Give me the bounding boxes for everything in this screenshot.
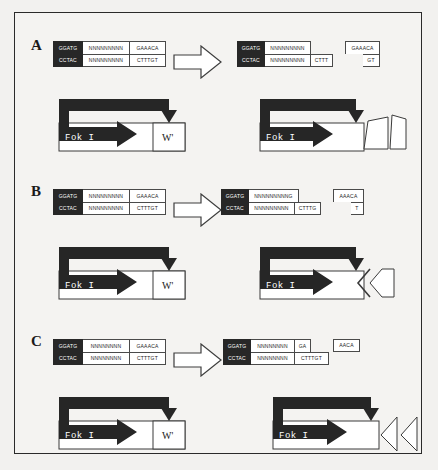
figure-frame: A GGATG NNNNNNNNN GAAACA CCTAC NNNNNNNNN… xyxy=(14,12,422,454)
dna-top-strand: GAAACA xyxy=(345,41,380,54)
recognition-site-bottom: CCTAC xyxy=(53,54,83,67)
recognition-site-top: GGATG xyxy=(221,189,249,202)
dna-bottom-strand: CCTAC NNNNNNNN CTTTGT xyxy=(53,352,166,365)
dna-top-strand: GGATG NNNNNNNNN GAAACA xyxy=(53,189,166,202)
target-bottom: CTTTGT xyxy=(130,54,166,67)
dna-top-strand: GGATG NNNNNNNNN GAAACA xyxy=(53,41,166,54)
recognition-site-top: GGATG xyxy=(237,41,265,54)
spacer-top: NNNNNNNNN xyxy=(83,189,130,202)
domain-label: W' xyxy=(162,132,173,143)
enzyme-label: Fok I xyxy=(65,431,95,441)
spacer-bottom: NNNNNNNNN xyxy=(249,202,295,215)
panel-b-dna-after-left: GGATG NNNNNNNNNG CCTAC NNNNNNNNN CTTTG xyxy=(221,189,321,215)
spacer-bottom: NNNNNNNNN xyxy=(83,54,130,67)
panel-a-enzyme-after: Fok I xyxy=(258,97,408,155)
panel-a-dna-after-right: GAAACA GT xyxy=(345,41,380,67)
spacer-top: NNNNNNNNN xyxy=(265,41,311,54)
spacer-top: NNNNNNNN xyxy=(251,339,295,352)
fragment-top: AAACA xyxy=(333,189,364,202)
figure-container: A GGATG NNNNNNNNN GAAACA CCTAC NNNNNNNNN… xyxy=(0,0,438,470)
enzyme-label: Fok I xyxy=(65,133,95,143)
overhang-top: GA xyxy=(295,339,311,352)
dna-top-strand: GGATG NNNNNNNN GA xyxy=(223,339,329,352)
target-top: GAAACA xyxy=(130,339,166,352)
fragment-bottom: T xyxy=(351,202,364,215)
recognition-site-bottom: CCTAC xyxy=(53,352,83,365)
spacer-top: NNNNNNNNNG xyxy=(249,189,299,202)
recognition-site-top: GGATG xyxy=(53,189,83,202)
transition-arrow-a xyxy=(173,45,223,79)
panel-c-dna-before: GGATG NNNNNNNN GAAACA CCTAC NNNNNNNN CTT… xyxy=(53,339,166,365)
spacer-bottom: NNNNNNNNN xyxy=(265,54,311,67)
spacer-top: NNNNNNNNN xyxy=(83,41,130,54)
target-top: GAAACA xyxy=(130,189,166,202)
dna-top-strand: GGATG NNNNNNNNNG xyxy=(221,189,321,202)
transition-arrow-c xyxy=(173,343,223,377)
recognition-site-bottom: CCTAC xyxy=(221,202,249,215)
recognition-site-bottom: CCTAC xyxy=(237,54,265,67)
spacer-top: NNNNNNNN xyxy=(83,339,130,352)
overhang-bottom: CTTT xyxy=(311,54,333,67)
dna-bottom-strand: CCTAC NNNNNNNNN CTTTGT xyxy=(53,202,166,215)
dna-top-strand: GGATG NNNNNNNN GAAACA xyxy=(53,339,166,352)
panel-b-dna-after-right: AAACA T xyxy=(333,189,364,215)
dna-top-strand: AACA xyxy=(333,339,360,352)
recognition-site-top: GGATG xyxy=(223,339,251,352)
dna-bottom-strand: CCTAC NNNNNNNNN CTTT xyxy=(237,54,333,67)
panel-a-enzyme-before: Fok I W' xyxy=(57,97,187,153)
recognition-site-bottom: CCTAC xyxy=(53,202,83,215)
fragment-top: AACA xyxy=(333,339,360,352)
panel-b-dna-before: GGATG NNNNNNNNN GAAACA CCTAC NNNNNNNNN C… xyxy=(53,189,166,215)
panel-b-enzyme-before: Fok I W' xyxy=(57,245,187,301)
domain-label: W' xyxy=(162,430,173,441)
panel-b-enzyme-after: Fok I xyxy=(258,245,408,303)
recognition-site-top: GGATG xyxy=(53,339,83,352)
dna-bottom-strand: CCTAC NNNNNNNN CTTTGT xyxy=(223,352,329,365)
panel-letter-c: C xyxy=(31,333,42,350)
panel-c-dna-after-left: GGATG NNNNNNNN GA CCTAC NNNNNNNN CTTTGT xyxy=(223,339,329,365)
enzyme-label: Fok I xyxy=(266,281,296,291)
dna-bottom-strand: CCTAC NNNNNNNNN CTTTG xyxy=(221,202,321,215)
enzyme-label: Fok I xyxy=(65,281,95,291)
enzyme-label: Fok I xyxy=(279,431,309,441)
dna-bottom-strand: T xyxy=(333,202,364,215)
target-bottom: CTTTGT xyxy=(130,352,166,365)
domain-label: W' xyxy=(162,280,173,291)
gap-spacer xyxy=(345,54,363,67)
dna-bottom-strand: GT xyxy=(345,54,380,67)
fragment-top: GAAACA xyxy=(345,41,380,54)
panel-letter-a: A xyxy=(31,37,42,54)
spacer-bottom: NNNNNNNNN xyxy=(83,202,130,215)
enzyme-label: Fok I xyxy=(266,133,296,143)
target-top: GAAACA xyxy=(130,41,166,54)
fragment-bottom: GT xyxy=(363,54,380,67)
panel-c-enzyme-before: Fok I W' xyxy=(57,395,187,451)
spacer-bottom: NNNNNNNN xyxy=(83,352,130,365)
transition-arrow-b xyxy=(173,193,223,227)
spacer-bottom: NNNNNNNN xyxy=(251,352,295,365)
recognition-site-top: GGATG xyxy=(53,41,83,54)
gap-spacer xyxy=(333,202,351,215)
panel-a-dna-before: GGATG NNNNNNNNN GAAACA CCTAC NNNNNNNNN C… xyxy=(53,41,166,67)
target-bottom: CTTTGT xyxy=(130,202,166,215)
overhang-bottom: CTTTG xyxy=(295,202,321,215)
recognition-site-bottom: CCTAC xyxy=(223,352,251,365)
panel-c-dna-after-right: AACA xyxy=(333,339,360,352)
panel-letter-b: B xyxy=(31,183,41,200)
dna-top-strand: AAACA xyxy=(333,189,364,202)
dna-bottom-strand: CCTAC NNNNNNNNN CTTTGT xyxy=(53,54,166,67)
panel-c-enzyme-after: Fok I xyxy=(271,395,421,455)
panel-a-dna-after-left: GGATG NNNNNNNNN CCTAC NNNNNNNNN CTTT xyxy=(237,41,333,67)
dna-top-strand: GGATG NNNNNNNNN xyxy=(237,41,333,54)
target-bottom: CTTTGT xyxy=(295,352,329,365)
